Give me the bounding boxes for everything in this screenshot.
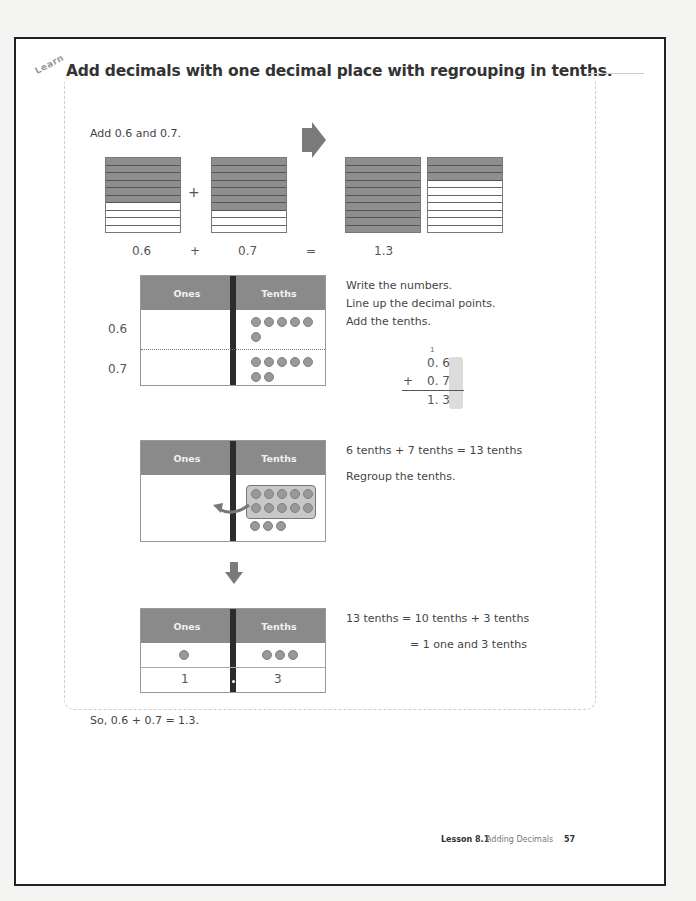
counters-6-row2 [251, 332, 264, 342]
grid-row [212, 196, 286, 204]
label-equals: = [306, 244, 316, 258]
right-arrow-icon [302, 122, 326, 158]
vertical-op: + [403, 374, 413, 388]
grid-row [212, 203, 286, 211]
grid-row [212, 173, 286, 181]
place-value-chart-3: Ones Tenths 1 3 [140, 608, 326, 693]
intro-text: Add 0.6 and 0.7. [90, 127, 181, 140]
carry-digit: 1 [430, 346, 434, 354]
header-ones: Ones [141, 609, 233, 643]
grid-row [212, 158, 286, 166]
group-of-ten-box [246, 485, 316, 519]
grid-row [106, 181, 180, 189]
grid-row [428, 188, 502, 196]
row-label-0-6: 0.6 [108, 322, 127, 336]
grid-row [428, 218, 502, 226]
grid-row [346, 203, 420, 211]
grid-row [428, 166, 502, 174]
grid-row [346, 196, 420, 204]
conclusion: So, 0.6 + 0.7 = 1.3. [90, 714, 199, 727]
grid-row [106, 196, 180, 204]
grid-row [212, 218, 286, 226]
place-value-chart-2: Ones Tenths [140, 440, 326, 542]
footer-lesson-title: Adding Decimals [486, 835, 553, 844]
vertical-result: 1. 3 [427, 393, 450, 407]
loose-counters [250, 521, 289, 531]
grid-0-6 [105, 157, 181, 233]
grid-row [106, 203, 180, 211]
decompose-line2: = 1 one and 3 tenths [410, 638, 527, 651]
grid-row [212, 181, 286, 189]
grid-row [106, 226, 180, 233]
tenths-highlight [449, 357, 463, 409]
label-plus: + [190, 244, 200, 258]
grid-row [346, 158, 420, 166]
tenths-equation: 6 tenths + 7 tenths = 13 tenths [346, 444, 522, 457]
ones-counter [179, 650, 192, 660]
grid-row [428, 226, 502, 233]
grid-row [346, 226, 420, 233]
grid-row [346, 173, 420, 181]
grid-row [346, 166, 420, 174]
footer-lesson-label: Lesson 8.1 [441, 835, 489, 844]
counters-7-row1 [251, 357, 316, 367]
grid-0-3 [427, 157, 503, 233]
grid-row [106, 218, 180, 226]
decimal-divider [230, 276, 236, 385]
grid-row [106, 211, 180, 219]
header-tenths: Tenths [233, 276, 325, 310]
grid-row [106, 166, 180, 174]
grid-row [106, 173, 180, 181]
ones-digit: 1 [181, 672, 189, 686]
header-tenths: Tenths [233, 609, 325, 643]
header-ones: Ones [141, 276, 233, 310]
grid-row [428, 203, 502, 211]
tenths-digit: 3 [274, 672, 282, 686]
sum-line [402, 390, 464, 391]
label-1-3: 1.3 [374, 244, 393, 258]
header-tenths: Tenths [233, 441, 325, 475]
grid-1-whole [345, 157, 421, 233]
header-ones: Ones [141, 441, 233, 475]
instruction-1: Write the numbers. [346, 279, 452, 292]
grid-row [428, 181, 502, 189]
grid-row [212, 211, 286, 219]
grid-row [212, 166, 286, 174]
grid-row [428, 211, 502, 219]
plus-sign: + [188, 184, 200, 200]
regroup-instruction: Regroup the tenths. [346, 470, 455, 483]
instruction-2: Line up the decimal points. [346, 297, 496, 310]
title-rule [588, 73, 644, 74]
page-number: 57 [564, 835, 575, 844]
down-arrow-icon [225, 562, 243, 584]
grid-row [428, 158, 502, 166]
instruction-3: Add the tenths. [346, 315, 431, 328]
grid-row [346, 218, 420, 226]
grid-0-7 [211, 157, 287, 233]
grid-row [346, 181, 420, 189]
row-label-0-7: 0.7 [108, 362, 127, 376]
grid-row [212, 226, 286, 233]
grid-row [428, 196, 502, 204]
row-separator [141, 349, 325, 350]
decompose-line1: 13 tenths = 10 tenths + 3 tenths [346, 612, 529, 625]
vertical-line1: 0. 6 [427, 356, 450, 370]
label-0-6: 0.6 [132, 244, 151, 258]
place-value-chart-1: Ones Tenths [140, 275, 326, 386]
grid-row [212, 188, 286, 196]
regroup-arrow-icon [211, 497, 251, 519]
vertical-line2: 0. 7 [427, 374, 450, 388]
grid-row [346, 188, 420, 196]
tenths-counters [262, 650, 301, 660]
grid-row [106, 188, 180, 196]
label-0-7: 0.7 [238, 244, 257, 258]
counters-6-row1 [251, 317, 316, 327]
counters-7-row2 [251, 372, 277, 382]
decimal-point [232, 680, 235, 683]
grid-row [346, 211, 420, 219]
grid-row [428, 173, 502, 181]
grid-row [106, 158, 180, 166]
decimal-divider [230, 441, 236, 541]
